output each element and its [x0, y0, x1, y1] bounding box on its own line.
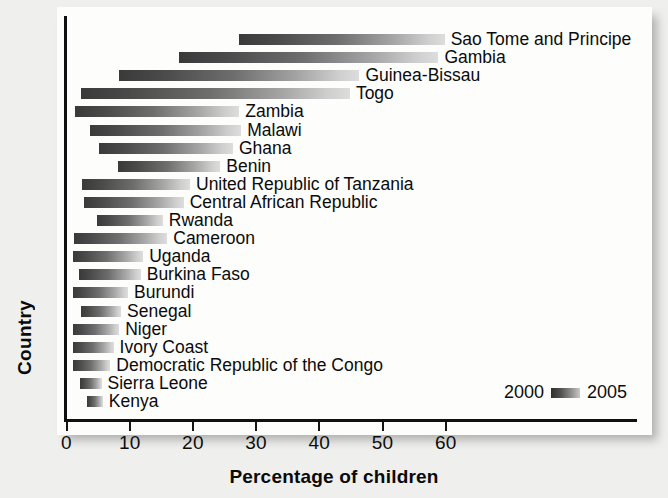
legend-label-2000: 2000	[504, 382, 544, 403]
bar-label-central-african-republic: Central African Republic	[190, 194, 378, 212]
chart-plot-area: 0102030405060 Sao Tome and PrincipeGambi…	[0, 0, 668, 498]
bar-label-niger: Niger	[125, 321, 167, 339]
x-tick-20	[192, 422, 194, 431]
bar-label-zambia: Zambia	[245, 103, 303, 121]
bar-label-gambia: Gambia	[444, 49, 505, 67]
bar-united-republic-of-tanzania	[82, 179, 190, 190]
bar-malawi	[90, 125, 241, 136]
bar-kenya	[87, 396, 103, 407]
bar-burkina-faso	[79, 269, 141, 280]
bar-label-benin: Benin	[226, 158, 271, 176]
x-tick-50	[382, 422, 384, 431]
x-tick-40	[318, 422, 320, 431]
x-tick-label-40: 40	[309, 432, 331, 454]
bar-sao-tome-and-principe	[239, 34, 444, 45]
bar-label-uganda: Uganda	[149, 248, 210, 266]
bar-label-united-republic-of-tanzania: United Republic of Tanzania	[196, 176, 414, 194]
bar-label-guinea-bissau: Guinea-Bissau	[365, 67, 480, 85]
bar-label-ghana: Ghana	[239, 140, 292, 158]
bar-label-sao-tome-and-principe: Sao Tome and Principe	[451, 31, 632, 49]
bar-label-malawi: Malawi	[247, 122, 301, 140]
x-tick-60	[445, 422, 447, 431]
bar-sierra-leone	[80, 378, 101, 389]
bar-central-african-republic	[84, 197, 184, 208]
bar-label-burundi: Burundi	[134, 284, 194, 302]
bar-label-burkina-faso: Burkina Faso	[147, 266, 250, 284]
x-tick-label-20: 20	[182, 432, 204, 454]
bar-democratic-republic-of-the-congo	[73, 360, 110, 371]
y-axis-line	[64, 16, 67, 422]
bar-senegal	[81, 306, 121, 317]
x-tick-label-60: 60	[435, 432, 457, 454]
bar-benin	[118, 161, 220, 172]
bar-togo	[81, 88, 350, 99]
bar-label-togo: Togo	[356, 85, 394, 103]
bar-gambia	[179, 52, 438, 63]
figure-page: 0102030405060 Sao Tome and PrincipeGambi…	[0, 0, 668, 498]
bar-ghana	[99, 143, 233, 154]
bar-burundi	[73, 287, 128, 298]
x-tick-label-10: 10	[119, 432, 141, 454]
legend-gradient-swatch	[551, 388, 580, 398]
y-axis-title-text: Country	[14, 300, 36, 375]
x-tick-10	[129, 422, 131, 431]
legend: 2000 2005	[504, 382, 627, 403]
bar-ivory-coast	[73, 342, 113, 353]
x-axis-title: Percentage of children	[0, 466, 668, 488]
x-tick-label-50: 50	[372, 432, 394, 454]
bar-label-sierra-leone: Sierra Leone	[108, 375, 208, 393]
y-axis-title: Country	[14, 300, 36, 375]
bar-label-senegal: Senegal	[127, 303, 191, 321]
bar-uganda	[73, 251, 143, 262]
bar-rwanda	[97, 215, 163, 226]
bar-label-democratic-republic-of-the-congo: Democratic Republic of the Congo	[116, 357, 383, 375]
bar-label-ivory-coast: Ivory Coast	[120, 339, 209, 357]
x-tick-label-0: 0	[61, 432, 72, 454]
bar-zambia	[75, 106, 239, 117]
x-tick-30	[255, 422, 257, 431]
x-tick-label-30: 30	[245, 432, 267, 454]
bar-niger	[73, 324, 119, 335]
bar-label-cameroon: Cameroon	[173, 230, 255, 248]
x-axis-line	[64, 419, 637, 422]
bar-guinea-bissau	[119, 70, 359, 81]
bar-label-rwanda: Rwanda	[169, 212, 233, 230]
legend-label-2005: 2005	[587, 382, 627, 403]
bar-label-kenya: Kenya	[109, 393, 159, 411]
bar-cameroon	[74, 233, 167, 244]
x-tick-0	[66, 422, 68, 431]
